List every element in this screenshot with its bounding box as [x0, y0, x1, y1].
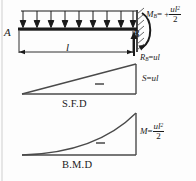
sfd-value: ul: [152, 73, 159, 83]
bmd-fraction: ul22: [153, 122, 165, 142]
bmd-symbol: M: [140, 126, 148, 136]
udl-arrow-group: [20, 11, 136, 28]
span-dimension: [19, 31, 133, 54]
bmd-caption: B.M.D: [62, 160, 92, 171]
bmd-max-label: M=ul22: [140, 122, 164, 142]
udl-arrow: [20, 11, 26, 28]
moment-reaction-label: MB= +ul22: [146, 5, 181, 25]
udl-arrow: [34, 11, 40, 28]
bmd-denominator: 2: [153, 132, 165, 141]
bending-moment-diagram: [22, 113, 136, 155]
udl-arrow: [76, 11, 82, 28]
diagram-canvas: [0, 0, 196, 181]
sfd-slope-line: [22, 64, 136, 94]
moment-fraction: ul22: [169, 5, 181, 25]
span-length-label: l: [66, 42, 69, 53]
reaction-value: ul: [153, 52, 160, 62]
udl-arrow: [62, 11, 68, 28]
bmd-numerator-exponent: 2: [161, 122, 164, 128]
beam-diagram-figure: A B l MB= +ul22 RB=ul S=ul M=ul22 S.F.D …: [0, 0, 196, 181]
beam-assembly: [18, 8, 150, 56]
sfd-caption: S.F.D: [62, 99, 87, 110]
beam-member: [18, 28, 137, 31]
udl-arrow: [130, 11, 136, 28]
moment-numerator-exponent: 2: [177, 5, 180, 11]
sfd-max-label: S=ul: [142, 74, 159, 83]
moment-symbol: M: [146, 10, 154, 19]
support-label-b: B: [133, 29, 139, 39]
support-label-a: A: [4, 27, 11, 38]
bmd-parabola: [22, 113, 136, 155]
udl-arrow: [104, 11, 110, 28]
udl-arrow: [48, 11, 54, 28]
udl-arrow: [118, 11, 124, 28]
vertical-reaction-label: RB=ul: [140, 53, 160, 63]
moment-equals: = +: [157, 9, 169, 19]
moment-denominator: 2: [169, 15, 181, 24]
udl-arrow: [90, 11, 96, 28]
bmd-numerator-base: ul: [154, 121, 161, 131]
shear-force-diagram: [22, 64, 136, 94]
